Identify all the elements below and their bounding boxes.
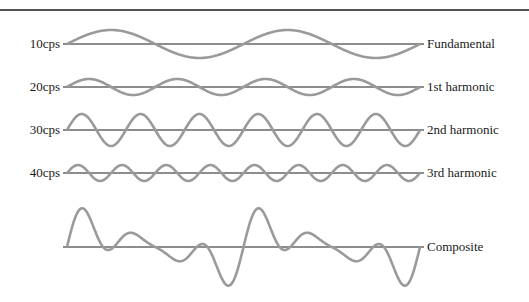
label-10cps: 10cps xyxy=(0,37,60,51)
label-2nd-harmonic: 2nd harmonic xyxy=(427,123,499,137)
label-30cps: 30cps xyxy=(0,123,60,137)
label-composite: Composite xyxy=(427,240,483,254)
label-fundamental: Fundamental xyxy=(427,37,495,51)
label-3rd-harmonic: 3rd harmonic xyxy=(427,166,497,180)
label-1st-harmonic: 1st harmonic xyxy=(427,80,495,94)
label-40cps: 40cps xyxy=(0,166,60,180)
label-20cps: 20cps xyxy=(0,80,60,94)
